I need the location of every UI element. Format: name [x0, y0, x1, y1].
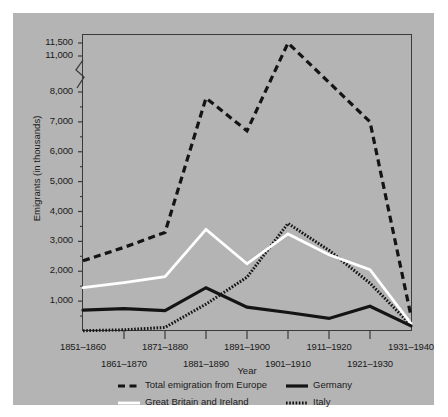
white-line-swatch — [117, 397, 139, 407]
chart-legend: Total emigration from EuropeGermanyGreat… — [117, 379, 417, 409]
y-tick-label: 8,000 — [29, 85, 73, 96]
y-tick-label: 6,000 — [29, 145, 73, 156]
legend-label: Great Britain and Ireland — [145, 396, 249, 407]
series-line-germany — [83, 288, 411, 326]
x-axis-label: Year — [82, 365, 412, 376]
x-tick-label: 1891–1900 — [215, 341, 279, 352]
y-tick-label: 11,500 — [29, 36, 73, 47]
x-axis-ticks — [124, 331, 370, 339]
data-series-group — [83, 43, 411, 331]
y-tick-label: 11,000 — [29, 49, 73, 60]
x-tick-label: 1911–1920 — [297, 341, 361, 352]
x-tick-label: 1931–1940 — [379, 341, 443, 352]
y-tick-label: 5,000 — [29, 175, 73, 186]
x-tick-label: 1851–1860 — [51, 341, 115, 352]
y-tick-label: 2,000 — [29, 264, 73, 275]
y-tick-label: 3,000 — [29, 234, 73, 245]
solid-line-swatch — [285, 380, 307, 390]
x-tick-label: 1871–1880 — [133, 341, 197, 352]
legend-label: Total emigration from Europe — [145, 379, 267, 390]
axis-break-zigzag — [76, 60, 84, 88]
y-tick-label: 1,000 — [29, 294, 73, 305]
dashed-line-swatch — [117, 380, 139, 390]
dotted-line-swatch — [285, 397, 307, 407]
legend-label: Italy — [313, 396, 330, 407]
y-tick-label: 4,000 — [29, 205, 73, 216]
axis-ticks — [78, 43, 83, 316]
chart-figure: Emigrants (in thousands) 11,50011,0008,0… — [13, 13, 434, 405]
series-line-italy — [83, 223, 411, 330]
axis-break-icon — [76, 60, 84, 88]
y-tick-label: 7,000 — [29, 115, 73, 126]
legend-label: Germany — [313, 379, 352, 390]
